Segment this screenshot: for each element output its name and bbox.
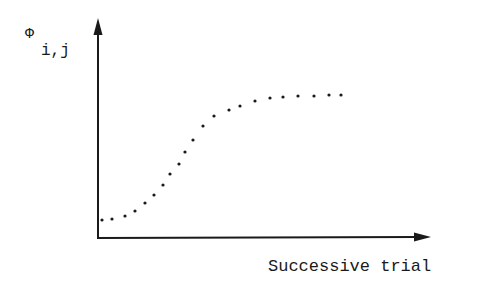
- data-point: [191, 138, 194, 141]
- data-point: [296, 94, 299, 97]
- data-point: [123, 214, 126, 217]
- data-point: [133, 209, 136, 212]
- data-point: [110, 217, 113, 220]
- chart: Φ i,j Successive trial: [0, 0, 492, 282]
- data-point: [268, 96, 271, 99]
- data-series-dots: [100, 93, 342, 221]
- data-point: [339, 93, 342, 96]
- data-point: [201, 124, 204, 127]
- data-point: [312, 94, 315, 97]
- y-axis-label-symbol: Φ: [25, 26, 34, 43]
- y-axis-label-subscript: i,j: [41, 42, 70, 60]
- data-point: [227, 108, 230, 111]
- y-axis-arrowhead-icon: [94, 18, 103, 35]
- x-axis-arrowhead-icon: [414, 233, 431, 242]
- x-axis: [97, 237, 418, 238]
- data-point: [143, 201, 146, 204]
- data-point: [152, 193, 155, 196]
- data-point: [212, 114, 215, 117]
- data-point: [281, 95, 284, 98]
- data-point: [161, 183, 164, 186]
- data-point: [183, 150, 186, 153]
- data-point: [177, 162, 180, 165]
- data-point: [327, 93, 330, 96]
- data-point: [100, 218, 103, 221]
- data-point: [168, 172, 171, 175]
- x-axis-label: Successive trial: [268, 257, 431, 276]
- data-point: [238, 104, 241, 107]
- data-point: [253, 99, 256, 102]
